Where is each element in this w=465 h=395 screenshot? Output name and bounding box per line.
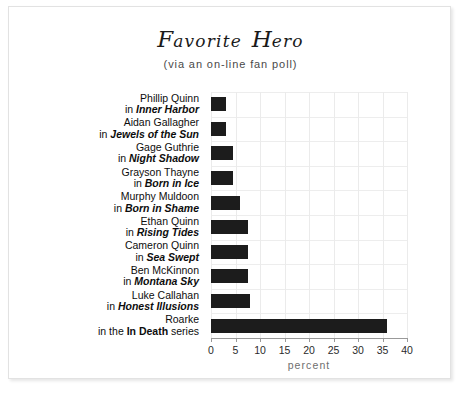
bar[interactable] (211, 319, 387, 333)
category-label: Luke Callahanin Honest Illusions (23, 290, 199, 313)
x-tick-label: 40 (392, 344, 422, 356)
work-title: in Jewels of the Sun (23, 129, 199, 141)
x-tick-mark (285, 338, 286, 342)
gridline-vertical (407, 92, 408, 338)
bar-row (211, 190, 407, 215)
bar[interactable] (211, 269, 248, 283)
chart-figure: Favorite Hero (via an on-line fan poll) … (8, 6, 451, 379)
category-label: Cameron Quinnin Sea Swept (23, 240, 199, 263)
work-title: in Night Shadow (23, 153, 199, 165)
character-name: Roarke (23, 314, 199, 326)
bar[interactable] (211, 196, 240, 210)
title-block: Favorite Hero (via an on-line fan poll) (9, 29, 452, 70)
x-tick-mark (407, 338, 408, 342)
x-tick-mark (358, 338, 359, 342)
x-tick-mark (309, 338, 310, 342)
category-label: Phillip Quinnin Inner Harbor (23, 93, 199, 116)
bars-layer (211, 92, 407, 338)
bar[interactable] (211, 146, 233, 160)
work-title: in Rising Tides (23, 227, 199, 239)
bar-row (211, 240, 407, 265)
work-title: in Honest Illusions (23, 301, 199, 313)
work-title: in the In Death series (23, 326, 199, 338)
bar[interactable] (211, 294, 250, 308)
bar-row (211, 264, 407, 289)
bar-row (211, 289, 407, 314)
x-tick-mark (211, 338, 212, 342)
work-title: in Born in Shame (23, 203, 199, 215)
bar-row (211, 141, 407, 166)
category-axis-labels: Phillip Quinnin Inner HarborAidan Gallag… (29, 92, 205, 338)
work-title: in Inner Harbor (23, 104, 199, 116)
bar[interactable] (211, 97, 226, 111)
category-label: Murphy Muldoonin Born in Shame (23, 191, 199, 214)
bar-row (211, 313, 407, 338)
work-title: in Montana Sky (23, 276, 199, 288)
category-label: Gage Guthriein Night Shadow (23, 142, 199, 165)
chart-title: Favorite Hero (9, 29, 452, 51)
work-title: in Born in Ice (23, 178, 199, 190)
category-label: Ben McKinnonin Montana Sky (23, 265, 199, 288)
chart-subtitle: (via an on-line fan poll) (9, 58, 452, 70)
bar[interactable] (211, 122, 226, 136)
bar[interactable] (211, 171, 233, 185)
category-label: Roarkein the In Death series (23, 314, 199, 337)
plot-area (211, 92, 407, 338)
x-tick-mark (236, 338, 237, 342)
bar-row (211, 117, 407, 142)
bar[interactable] (211, 220, 248, 234)
x-tick-mark (383, 338, 384, 342)
x-tick-mark (260, 338, 261, 342)
x-tick-mark (334, 338, 335, 342)
category-label: Grayson Thaynein Born in Ice (23, 167, 199, 190)
category-label: Aidan Gallagherin Jewels of the Sun (23, 117, 199, 140)
bar[interactable] (211, 245, 248, 259)
x-axis-title: percent (211, 359, 407, 371)
category-label: Ethan Quinnin Rising Tides (23, 216, 199, 239)
work-title: in Sea Swept (23, 252, 199, 264)
bar-row (211, 92, 407, 117)
bar-row (211, 166, 407, 191)
bar-row (211, 215, 407, 240)
